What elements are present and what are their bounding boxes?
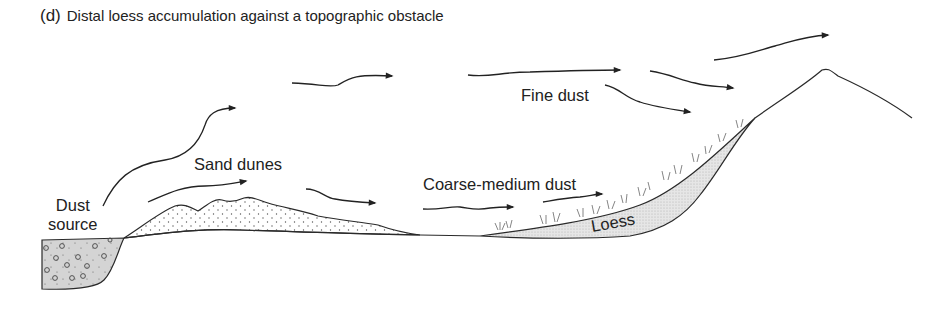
wind-arrow-upper-3	[650, 71, 733, 88]
label-fine-dust: Fine dust	[521, 86, 589, 105]
sand-dunes-shape	[124, 197, 420, 238]
wind-arrow-coarse-2	[543, 194, 602, 202]
loess-diagram	[0, 0, 949, 311]
label-sand-dunes: Sand dunes	[194, 155, 282, 174]
topographic-obstacle	[755, 69, 912, 118]
dust-source-deposit	[42, 238, 124, 289]
wind-arrow-dunes-1	[148, 181, 246, 202]
wind-arrow-upper-1	[292, 75, 392, 86]
wind-arrow-fine-dust	[605, 85, 690, 112]
wind-arrow-high	[714, 35, 828, 60]
label-coarse-medium-dust: Coarse-medium dust	[423, 175, 576, 194]
label-dust-source: Dust source	[48, 196, 98, 234]
wind-arrow-coarse-1	[423, 207, 513, 209]
wind-arrow-dunes-2	[306, 189, 375, 203]
wind-arrow-upper-2	[468, 70, 620, 76]
